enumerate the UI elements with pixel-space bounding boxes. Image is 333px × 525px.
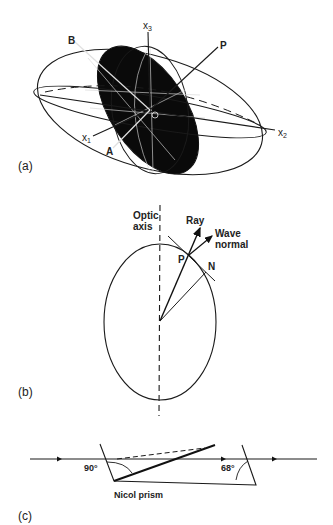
angle-68-label: 68° xyxy=(221,463,235,473)
point-n-label: N xyxy=(208,261,215,272)
ray-arrowhead-2 xyxy=(221,457,226,462)
x1-label: x1 xyxy=(82,132,91,144)
x3-label: x3 xyxy=(143,20,152,32)
ray-arrowhead-1 xyxy=(57,457,62,462)
nicol-prism-caption: Nicol prism xyxy=(114,490,163,500)
panel-b-diagram xyxy=(104,205,216,416)
panel-b-label: (b) xyxy=(18,385,33,399)
optic-axis-line xyxy=(159,205,160,416)
normal-label: normal xyxy=(215,239,249,250)
angle-90-label: 90° xyxy=(84,463,98,473)
figure-canvas: x3 x2 x1 B P A (a) Optic axis Ray Wave n… xyxy=(0,0,333,525)
tangent-line xyxy=(168,236,215,281)
optic-label-2: axis xyxy=(133,221,153,232)
cement-diagonal xyxy=(114,445,215,481)
normal-line-to-n xyxy=(160,272,206,321)
x2-label: x2 xyxy=(278,127,287,139)
panel-a-label: (a) xyxy=(18,159,33,173)
ray-arrowhead-3 xyxy=(272,457,277,462)
optic-label-1: Optic xyxy=(133,210,159,221)
panel-c-nicol-prism xyxy=(30,444,317,485)
point-a-label: A xyxy=(106,146,113,157)
panel-a-ellipsoid xyxy=(23,26,277,198)
wave-label: Wave xyxy=(215,228,241,239)
point-p-b-label: P xyxy=(178,254,185,265)
point-p-label: P xyxy=(220,40,227,51)
panel-c-label: (c) xyxy=(18,509,32,523)
ray-label: Ray xyxy=(186,215,205,226)
point-b-label: B xyxy=(68,35,75,46)
angle-arc-68 xyxy=(236,461,248,480)
ray-arrow xyxy=(160,228,200,321)
